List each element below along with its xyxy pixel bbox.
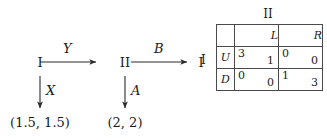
table-row: U 3 1 0 0 <box>217 47 323 69</box>
column-header-r: R <box>279 25 323 47</box>
node-player-2: II <box>112 56 138 69</box>
cell-u-l-row-payoff: 3 <box>238 48 245 59</box>
cell-u-r-row-payoff: 0 <box>282 48 289 59</box>
cell-u-l: 3 1 <box>235 47 279 69</box>
cell-u-l-col-payoff: 1 <box>267 55 274 66</box>
arrow-label-y: Y <box>63 42 72 55</box>
arrow-label-b: B <box>154 42 164 55</box>
cell-d-r: 1 3 <box>279 69 323 91</box>
cell-u-r-col-payoff: 0 <box>311 55 318 66</box>
cell-d-l: 0 0 <box>235 69 279 91</box>
cell-d-r-col-payoff: 3 <box>311 77 318 88</box>
row-header-u: U <box>217 47 235 69</box>
payoff-matrix: L R U 3 1 0 0 D 0 0 <box>216 24 323 91</box>
matrix-corner-cell <box>217 25 235 47</box>
table-row: D 0 0 1 3 <box>217 69 323 91</box>
payoff-matrix-block: II L R U 3 1 0 0 D 0 <box>216 8 320 91</box>
node-player-1-first: I <box>33 56 47 69</box>
cell-u-r: 0 0 <box>279 47 323 69</box>
row-header-d: D <box>217 69 235 91</box>
terminal-payoff-a: (2, 2) <box>98 116 152 129</box>
game-theory-diagram: I II I Y B X A (1.5, 1.5) (2, 2) I II L … <box>0 0 327 140</box>
arrow-label-a: A <box>131 84 140 97</box>
cell-d-r-row-payoff: 1 <box>282 70 289 81</box>
cell-d-l-col-payoff: 0 <box>267 77 274 88</box>
terminal-payoff-x: (1.5, 1.5) <box>2 116 78 129</box>
arrow-label-x: X <box>46 84 55 97</box>
column-header-l: L <box>235 25 279 47</box>
cell-d-l-row-payoff: 0 <box>238 70 245 81</box>
matrix-column-player-label: II <box>216 8 320 20</box>
table-header-row: L R <box>217 25 323 47</box>
matrix-row-player-label: I <box>201 54 206 66</box>
